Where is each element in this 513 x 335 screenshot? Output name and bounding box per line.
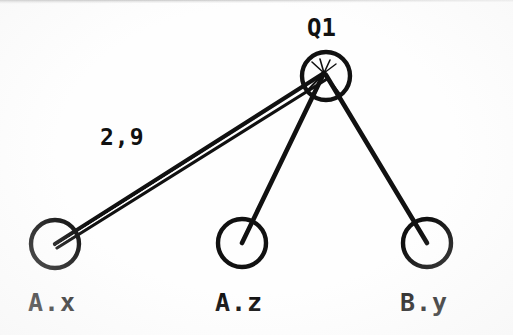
edge-by-q1-stroke — [326, 75, 427, 243]
graph-svg — [0, 0, 513, 335]
edge-ax-q1[interactable] — [55, 73, 327, 248]
edge-ax-q1-stroke-b — [57, 79, 327, 248]
edge-label-ax-q1: 2,9 — [100, 124, 145, 150]
edge-ax-q1-gap — [56, 76, 326, 246]
node-label-az: A.z — [215, 288, 263, 317]
node-label-ax: A.x — [28, 288, 76, 317]
node-label-by: B.y — [400, 288, 448, 317]
edge-by-q1[interactable] — [326, 75, 427, 243]
node-label-q1: Q1 — [307, 14, 336, 42]
diagram-canvas: Q1 2,9 A.x A.z B.y — [0, 0, 513, 335]
